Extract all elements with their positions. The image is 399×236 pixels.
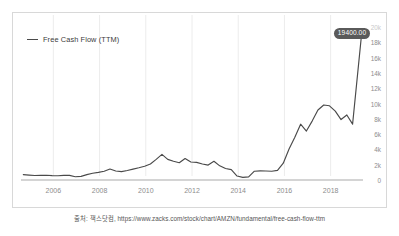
y-tick-label: 10k — [371, 100, 381, 107]
y-tick-label: 8k — [374, 115, 381, 122]
y-tick-label: 20k — [371, 24, 381, 31]
y-tick-label: 0 — [377, 177, 381, 184]
x-tick-label: 2016 — [277, 187, 293, 194]
x-tick-label: 2012 — [184, 187, 200, 194]
chart-plot-area — [13, 13, 386, 207]
y-tick-label: 2k — [374, 161, 381, 168]
y-tick-label: 6k — [374, 131, 381, 138]
x-tick-label: 2008 — [92, 187, 108, 194]
x-tick-label: 2010 — [138, 187, 154, 194]
x-tick-label: 2006 — [46, 187, 62, 194]
vertical-gridlines — [53, 15, 330, 176]
y-tick-label: 18k — [371, 39, 381, 46]
value-tooltip-badge: 19400.00 — [334, 28, 370, 40]
x-tick-label: 2014 — [230, 187, 246, 194]
y-tick-label: 12k — [371, 85, 381, 92]
chart-page: Free Cash Flow (TTM) 02k4k6k8k10k12k14k1… — [0, 0, 399, 236]
x-tick-label: 2018 — [323, 187, 339, 194]
y-tick-label: 14k — [371, 69, 381, 76]
y-tick-label: 16k — [371, 54, 381, 61]
y-tick-label: 4k — [374, 146, 381, 153]
chart-card: Free Cash Flow (TTM) 02k4k6k8k10k12k14k1… — [12, 12, 387, 208]
source-caption: 출처: 잭스닷컴, https://www.zacks.com/stock/ch… — [0, 214, 399, 223]
series-line-free-cash-flow — [23, 32, 362, 178]
